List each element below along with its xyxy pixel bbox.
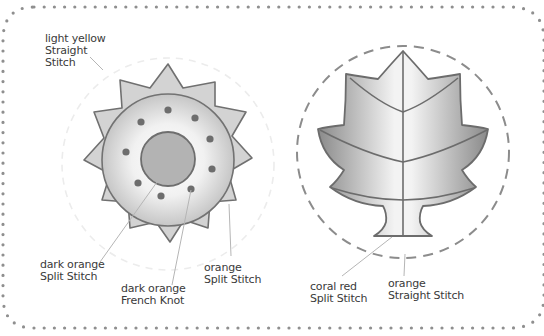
label-dark-orange-split-stitch: dark orange Split Stitch: [40, 259, 105, 283]
label-dark-orange-french-knot: dark orange French Knot: [121, 283, 186, 307]
label-orange-straight-stitch: orange Straight Stitch: [388, 278, 464, 302]
leaf-motif: [297, 46, 509, 258]
label-light-yellow-straight-stitch: light yellow Straight Stitch: [45, 33, 106, 69]
sun-inner-circle: [141, 132, 195, 186]
label-orange-split-stitch: orange Split Stitch: [204, 262, 261, 286]
label-coral-red-split-stitch: coral red Split Stitch: [310, 281, 367, 305]
embroidery-pattern: light yellow Straight Stitch dark orange…: [0, 0, 544, 336]
sun-motif: [62, 58, 274, 270]
